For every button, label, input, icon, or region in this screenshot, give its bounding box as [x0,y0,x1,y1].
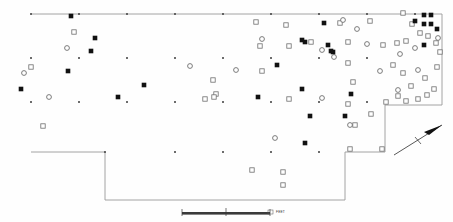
filled-feature-symbol [429,13,434,18]
open-square-symbol [211,78,215,82]
grid-station-point [318,101,320,103]
filled-feature-symbol [413,19,418,24]
open-square-symbol [369,112,373,116]
open-square-symbol [287,44,291,48]
excavation-outline [31,14,442,200]
open-square-symbol [29,65,33,69]
north-arrow [394,125,442,155]
filled-feature-symbol [66,69,71,74]
grid-station-layer [30,13,416,153]
open-square-symbol [380,147,384,151]
open-square-symbol [309,40,313,44]
grid-station-point [30,101,32,103]
scale-bar-units-label: FEET [276,210,285,214]
filled-feature-symbol [329,49,334,54]
grid-station-point [174,151,176,153]
grid-station-point [222,101,224,103]
open-square-symbol [281,183,285,187]
open-square-symbol [384,100,388,104]
open-square-symbol [438,50,442,54]
filled-feature-symbol [422,13,427,18]
open-circle-symbol [320,96,325,101]
filled-feature-layer [19,13,440,146]
grid-station-point [366,101,368,103]
open-circle-symbol [320,48,325,53]
open-circle-layer [22,18,441,141]
open-square-symbol [351,80,355,84]
open-square-symbol [212,95,216,99]
open-square-symbol [41,124,45,128]
grid-station-point [270,57,272,59]
open-circle-symbol [396,88,401,93]
open-square-symbol [258,44,262,48]
filled-feature-symbol [422,43,427,48]
filled-feature-symbol [349,92,354,97]
open-square-symbol [254,20,258,24]
open-circle-symbol [416,68,421,73]
filled-feature-symbol [308,114,313,119]
open-square-symbol [404,39,408,43]
filled-feature-symbol [343,114,348,119]
open-square-symbol [404,99,408,103]
grid-station-point [270,13,272,15]
site-plan-map: FEET [0,0,453,222]
open-square-symbol [72,30,76,34]
grid-station-point [78,13,80,15]
open-circle-symbol [22,71,27,76]
open-circle-symbol [273,136,278,141]
filled-feature-symbol [422,22,427,27]
open-square-symbol [418,31,422,35]
open-square-symbol [434,41,438,45]
open-circle-symbol [413,46,418,51]
open-circle-symbol [398,52,403,57]
plan-svg [0,0,453,222]
grid-station-point [104,151,106,153]
open-square-symbol [250,168,254,172]
grid-station-point [78,101,80,103]
filled-feature-symbol [300,38,305,43]
open-square-symbol [423,76,427,80]
grid-station-point [366,13,368,15]
open-square-symbol [353,123,357,127]
open-circle-symbol [47,95,52,100]
open-square-symbol [426,34,430,38]
open-square-symbol [346,61,350,65]
grid-station-point [222,57,224,59]
open-square-symbol [396,94,400,98]
grid-station-point [174,101,176,103]
grid-station-point [318,151,320,153]
filled-feature-symbol [326,43,331,48]
filled-feature-symbol [142,83,147,88]
open-square-symbol [401,11,405,15]
open-square-symbol [284,23,288,27]
grid-station-point [270,101,272,103]
filled-feature-symbol [19,87,24,92]
grid-station-point [318,57,320,59]
grid-station-point [174,13,176,15]
open-circle-symbol [436,36,441,41]
grid-station-point [222,13,224,15]
filled-feature-symbol [93,36,98,41]
grid-station-point [126,13,128,15]
open-square-symbol [368,19,372,23]
grid-station-point [414,13,416,15]
open-circle-symbol [341,18,346,23]
filled-feature-symbol [89,49,94,54]
open-square-symbol [260,69,264,73]
open-circle-symbol [65,46,70,51]
open-square-symbol [395,41,399,45]
open-square-symbol [203,97,207,101]
open-square-symbol [425,93,429,97]
grid-station-point [78,57,80,59]
open-circle-symbol [234,68,239,73]
filled-feature-symbol [300,87,305,92]
open-square-symbol [401,71,405,75]
open-square-symbol [346,40,350,44]
open-square-layer [29,11,442,187]
open-circle-symbol [365,42,370,47]
open-square-symbol [432,87,436,91]
open-circle-symbol [348,123,353,128]
open-square-symbol [416,97,420,101]
open-square-symbol [435,65,439,69]
open-circle-symbol [355,27,360,32]
